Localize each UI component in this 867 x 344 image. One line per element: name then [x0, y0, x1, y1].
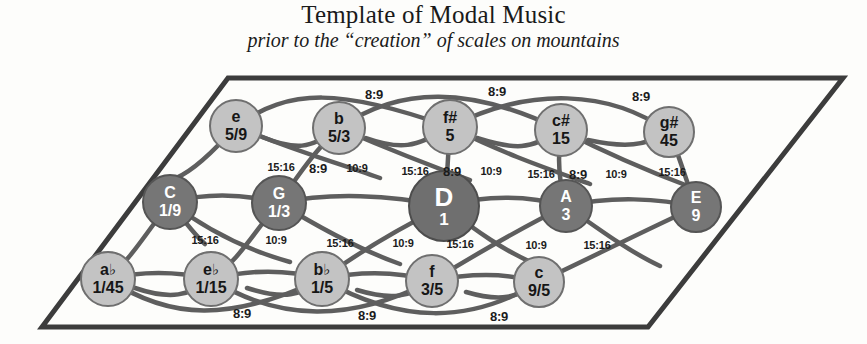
node-pitch-label: e	[232, 109, 241, 125]
node-pitch-label: b	[334, 111, 344, 127]
lattice-node-b15[interactable]: b♭1/5	[294, 251, 350, 307]
edge-ratio-label: 8:9	[632, 89, 650, 104]
edge-ratio-label: 10:9	[392, 237, 413, 249]
edge-ratio-label: 8:9	[358, 308, 376, 323]
edge-ratio-label: 8:9	[365, 87, 383, 102]
node-ratio-label: 1/5	[311, 280, 333, 296]
edge-ratio-label: 10:9	[525, 239, 546, 251]
node-ratio-label: 5/3	[328, 129, 350, 145]
lattice-node-c15[interactable]: c#15	[534, 103, 588, 157]
edge-ratio-label: 10:9	[605, 168, 626, 180]
diagram-page: Template of Modal Music prior to the “cr…	[0, 0, 867, 344]
node-ratio-label: 5/9	[225, 127, 247, 143]
node-pitch-label: f#	[443, 110, 457, 126]
node-ratio-label: 1	[439, 211, 448, 228]
edge-ratio-label: 15:16	[446, 238, 473, 250]
node-pitch-label: e♭	[203, 262, 219, 278]
edge-ratio-label: 8:9	[490, 309, 508, 324]
lattice-node-a145[interactable]: a♭1/45	[80, 251, 136, 307]
lattice-node-g45[interactable]: g#45	[643, 106, 695, 158]
node-pitch-label: b♭	[314, 262, 331, 278]
edge-ratio-label: 15:16	[401, 165, 428, 177]
edge-ratio-label: 8:9	[233, 306, 251, 321]
title-block: Template of Modal Music prior to the “cr…	[0, 2, 867, 52]
node-pitch-label: g#	[660, 115, 679, 131]
page-title: Template of Modal Music	[0, 2, 867, 28]
node-ratio-label: 3	[562, 207, 571, 223]
node-pitch-label: D	[435, 184, 454, 210]
node-pitch-label: E	[691, 190, 702, 206]
edge-ratio-label: 8:9	[443, 164, 461, 179]
node-pitch-label: C	[164, 185, 176, 201]
edge-ratio-label: 8:9	[569, 167, 587, 182]
node-pitch-label: c	[535, 265, 544, 281]
node-ratio-label: 9	[692, 208, 701, 224]
page-subtitle: prior to the “creation” of scales on mou…	[0, 29, 867, 52]
node-ratio-label: 3/5	[421, 282, 443, 298]
lattice-node-f5[interactable]: f#5	[422, 99, 478, 155]
edge-ratio-label: 15:16	[583, 239, 610, 251]
node-pitch-label: G	[273, 186, 285, 202]
edge-ratio-label: 15:16	[527, 168, 554, 180]
lattice-node-b53[interactable]: b5/3	[312, 101, 366, 155]
edge-ratio-label: 15:16	[191, 234, 218, 246]
edge-ratio-label: 15:16	[326, 237, 353, 249]
node-ratio-label: 5	[446, 128, 455, 144]
node-ratio-label: 15	[552, 131, 570, 147]
node-pitch-label: a♭	[100, 262, 116, 278]
edge-ratio-label: 10:9	[346, 162, 367, 174]
edge-ratio-label: 15:16	[267, 161, 294, 173]
edge-ratio-label: 10:9	[265, 234, 286, 246]
lattice-node-A3[interactable]: A3	[539, 179, 593, 233]
node-pitch-label: c#	[552, 113, 570, 129]
lattice-node-c95[interactable]: c9/5	[513, 256, 565, 308]
lattice-node-e115[interactable]: e♭1/15	[183, 251, 239, 307]
node-ratio-label: 1/45	[92, 280, 123, 296]
edge-ratio-label: 15:16	[658, 166, 685, 178]
node-ratio-label: 45	[660, 133, 678, 149]
lattice-node-D1[interactable]: D1	[408, 170, 480, 242]
node-ratio-label: 1/15	[195, 280, 226, 296]
lattice-node-E9[interactable]: E9	[670, 181, 722, 233]
edge-ratio-label: 8:9	[309, 161, 327, 176]
lattice-node-e59[interactable]: e5/9	[209, 99, 263, 153]
node-ratio-label: 1/9	[159, 203, 181, 219]
node-ratio-label: 1/3	[268, 204, 290, 220]
lattice-node-f35[interactable]: f3/5	[405, 254, 459, 308]
node-pitch-label: f	[429, 264, 434, 280]
node-ratio-label: 9/5	[528, 283, 550, 299]
edge-ratio-label: 8:9	[488, 84, 506, 99]
node-pitch-label: A	[560, 189, 572, 205]
lattice-node-C19[interactable]: C1/9	[142, 174, 198, 230]
lattice-node-G13[interactable]: G1/3	[251, 175, 307, 231]
edge-ratio-label: 10:9	[480, 165, 501, 177]
